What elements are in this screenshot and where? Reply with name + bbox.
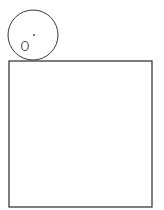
background [0,0,164,210]
center-dot [33,34,35,36]
diagram-canvas [0,0,164,210]
